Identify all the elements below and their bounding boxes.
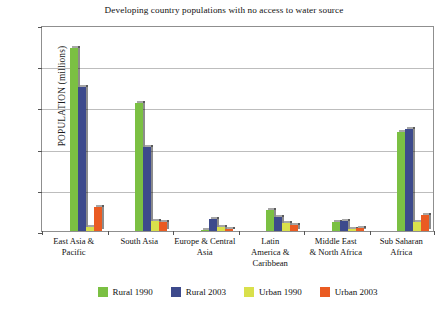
bar: [282, 223, 290, 231]
bar: [143, 147, 151, 231]
bar-groups: [42, 27, 433, 231]
legend-item[interactable]: Rural 1990: [98, 287, 153, 297]
bar-top-shadow: [407, 127, 415, 129]
bar-group: [135, 27, 167, 231]
bar-top-shadow: [211, 217, 219, 219]
bar: [405, 129, 413, 231]
bar-face: [348, 229, 356, 231]
legend-item[interactable]: Urban 2003: [320, 287, 378, 297]
bar-top-shadow: [276, 215, 284, 217]
bar-face: [135, 103, 143, 231]
bar-face: [274, 217, 282, 231]
bar-group: [332, 27, 364, 231]
bar-face: [86, 227, 94, 231]
bar: [201, 230, 209, 231]
bar-top-shadow: [284, 221, 292, 223]
bar: [397, 132, 405, 231]
x-tick-mark: [370, 231, 371, 235]
bar-face: [94, 207, 102, 231]
bar-face: [209, 219, 217, 231]
x-tick-mark: [173, 231, 174, 235]
bar-side-shadow: [102, 205, 104, 229]
legend-swatch-icon: [98, 287, 108, 297]
legend-swatch-icon: [320, 287, 330, 297]
x-axis-category-labels: East Asia &PacificSouth AsiaEurope & Cen…: [41, 236, 434, 280]
bar-face: [143, 147, 151, 231]
bar-side-shadow: [151, 145, 153, 229]
bar-face: [217, 227, 225, 231]
bar-top-shadow: [80, 85, 88, 87]
bar: [225, 229, 233, 231]
bar: [217, 227, 225, 231]
bar-group: [70, 27, 102, 231]
bar: [94, 207, 102, 231]
bar: [356, 228, 364, 231]
bar: [348, 229, 356, 231]
bar-top-shadow: [219, 225, 227, 227]
bar-side-shadow: [429, 213, 431, 229]
chart-title: Developing country populations with no a…: [0, 5, 448, 15]
bar-top-shadow: [358, 226, 366, 228]
legend-label: Urban 2003: [335, 287, 378, 297]
bar-face: [78, 87, 86, 231]
bar-group: [266, 27, 298, 231]
bar-top-shadow: [145, 145, 153, 147]
bar: [413, 222, 421, 231]
bar-group: [201, 27, 233, 231]
bar-top-shadow: [342, 219, 350, 221]
bar: [421, 215, 429, 231]
chart-container: Developing country populations with no a…: [0, 0, 448, 316]
legend-item[interactable]: Urban 1990: [244, 287, 302, 297]
bar: [70, 48, 78, 231]
bar-face: [201, 230, 209, 231]
bar-side-shadow: [413, 127, 415, 229]
bar-top-shadow: [268, 208, 276, 210]
x-category-label-line: Africa: [361, 247, 442, 258]
bar-face: [340, 221, 348, 231]
legend-label: Rural 2003: [186, 287, 226, 297]
bar-face: [397, 132, 405, 231]
bar: [159, 222, 167, 231]
x-tick-mark: [108, 231, 109, 235]
bar-face: [266, 210, 274, 231]
legend-swatch-icon: [171, 287, 181, 297]
x-tick-mark: [304, 231, 305, 235]
x-tick-mark: [239, 231, 240, 235]
bar-face: [70, 48, 78, 231]
chart-legend: Rural 1990Rural 2003Urban 1990Urban 2003: [41, 287, 434, 297]
bar: [209, 219, 217, 231]
bar-face: [356, 228, 364, 231]
bar-face: [282, 223, 290, 231]
x-category-label-line: Pacific: [33, 247, 114, 258]
x-tick-mark: [434, 231, 435, 235]
legend-item[interactable]: Rural 2003: [171, 287, 226, 297]
legend-swatch-icon: [244, 287, 254, 297]
bar-face: [413, 222, 421, 231]
x-category-label: Sub SaharanAfrica: [361, 236, 442, 258]
bar-top-shadow: [423, 213, 431, 215]
bar-face: [225, 229, 233, 231]
bar: [86, 227, 94, 231]
bar-group: [397, 27, 429, 231]
bar-face: [332, 222, 340, 231]
bar-face: [405, 129, 413, 231]
bar-top-shadow: [72, 46, 80, 48]
bar: [78, 87, 86, 231]
bar: [340, 221, 348, 231]
x-category-label-line: Caribbean: [230, 258, 311, 269]
bar: [135, 103, 143, 231]
bar-face: [290, 225, 298, 231]
bar-top-shadow: [96, 205, 104, 207]
bar-top-shadow: [161, 220, 169, 222]
x-tick-mark: [42, 231, 43, 235]
plot-area: POPULATION (millions) 0100200300400500: [41, 26, 434, 232]
legend-label: Urban 1990: [259, 287, 302, 297]
legend-label: Rural 1990: [113, 287, 153, 297]
bar-face: [421, 215, 429, 231]
bar-top-shadow: [292, 223, 300, 225]
bar-top-shadow: [227, 227, 235, 229]
x-category-label-line: Sub Saharan: [361, 236, 442, 247]
bar-top-shadow: [153, 219, 161, 221]
bar: [332, 222, 340, 231]
bar-face: [151, 221, 159, 231]
